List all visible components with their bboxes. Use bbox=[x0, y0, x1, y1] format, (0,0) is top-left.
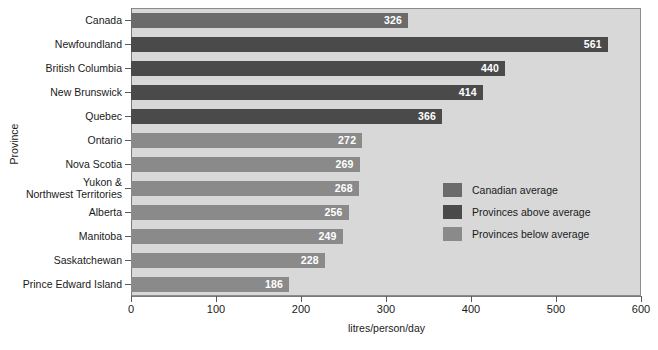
x-axis-tick-label: 0 bbox=[128, 303, 134, 315]
x-axis-tick bbox=[216, 296, 217, 302]
legend-swatch bbox=[443, 183, 462, 197]
bar bbox=[131, 13, 408, 28]
x-axis-tick bbox=[641, 296, 642, 302]
y-axis-category-label: Canada bbox=[85, 14, 122, 26]
y-axis-category-label: Prince Edward Island bbox=[23, 278, 122, 290]
x-axis-tick bbox=[471, 296, 472, 302]
y-axis-category-label: Manitoba bbox=[79, 230, 122, 242]
y-axis-tick bbox=[125, 116, 131, 117]
bar-value-label: 272 bbox=[338, 134, 356, 146]
y-axis-title: Province bbox=[8, 109, 20, 179]
y-axis-tick bbox=[125, 212, 131, 213]
bar-value-label: 561 bbox=[584, 38, 602, 50]
bar-value-label: 326 bbox=[384, 14, 402, 26]
y-axis-tick bbox=[125, 140, 131, 141]
y-axis-category-label: New Brunswick bbox=[50, 86, 122, 98]
legend-swatch bbox=[443, 205, 462, 219]
bar bbox=[131, 61, 505, 76]
bar-value-label: 256 bbox=[324, 206, 342, 218]
bar bbox=[131, 253, 325, 268]
y-axis-tick bbox=[125, 20, 131, 21]
y-axis-category-label: British Columbia bbox=[46, 62, 122, 74]
bar-value-label: 268 bbox=[335, 182, 353, 194]
x-axis-tick-label: 600 bbox=[632, 303, 650, 315]
y-axis-category-label: Alberta bbox=[89, 206, 122, 218]
legend-label: Canadian average bbox=[472, 184, 558, 196]
legend-label: Provinces below average bbox=[472, 228, 589, 240]
y-axis-category-label: Quebec bbox=[85, 110, 122, 122]
bar bbox=[131, 157, 360, 172]
bar bbox=[131, 205, 349, 220]
y-axis-tick bbox=[125, 164, 131, 165]
x-axis-tick-label: 100 bbox=[207, 303, 225, 315]
legend-label: Provinces above average bbox=[472, 206, 591, 218]
bar-value-label: 366 bbox=[418, 110, 436, 122]
y-axis-tick bbox=[125, 92, 131, 93]
y-axis-tick bbox=[125, 188, 131, 189]
legend-item: Canadian average bbox=[443, 179, 608, 201]
bar-value-label: 228 bbox=[301, 254, 319, 266]
bar-chart: 326561440414366272269268256249228186 Can… bbox=[0, 0, 658, 350]
x-axis-title: litres/person/day bbox=[131, 322, 642, 334]
y-axis-category-label: Newfoundland bbox=[55, 38, 122, 50]
y-axis-tick bbox=[125, 44, 131, 45]
bar bbox=[131, 229, 343, 244]
y-axis-category-label: Yukon &Northwest Territories bbox=[26, 176, 122, 200]
x-axis-tick-label: 400 bbox=[462, 303, 480, 315]
bar-value-label: 269 bbox=[336, 158, 354, 170]
chart-legend: Canadian averageProvinces above averageP… bbox=[443, 179, 608, 245]
x-axis-tick-label: 500 bbox=[547, 303, 565, 315]
legend-item: Provinces above average bbox=[443, 201, 608, 223]
x-axis-tick-label: 200 bbox=[292, 303, 310, 315]
y-axis-tick bbox=[125, 260, 131, 261]
legend-swatch bbox=[443, 227, 462, 241]
y-axis-category-label: Nova Scotia bbox=[65, 158, 122, 170]
bar-value-label: 186 bbox=[265, 278, 283, 290]
bar-value-label: 414 bbox=[459, 86, 477, 98]
y-axis-tick bbox=[125, 68, 131, 69]
bar bbox=[131, 181, 359, 196]
y-axis-tick bbox=[125, 236, 131, 237]
y-axis-category-label: Saskatchewan bbox=[54, 254, 122, 266]
x-axis-tick bbox=[386, 296, 387, 302]
x-axis-tick bbox=[131, 296, 132, 302]
legend-item: Provinces below average bbox=[443, 223, 608, 245]
bar bbox=[131, 133, 362, 148]
x-axis-tick bbox=[301, 296, 302, 302]
bar bbox=[131, 109, 442, 124]
bar bbox=[131, 37, 608, 52]
y-axis-category-label: Ontario bbox=[88, 134, 122, 146]
x-axis-tick-label: 300 bbox=[377, 303, 395, 315]
y-axis-tick bbox=[125, 284, 131, 285]
bar-value-label: 440 bbox=[481, 62, 499, 74]
bar bbox=[131, 85, 483, 100]
x-axis-tick bbox=[556, 296, 557, 302]
bar-value-label: 249 bbox=[319, 230, 337, 242]
